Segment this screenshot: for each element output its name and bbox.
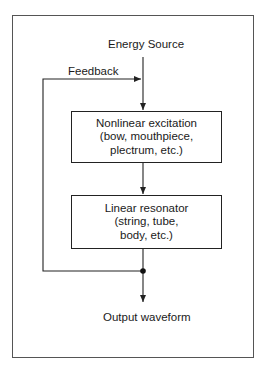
signal-flow-diagram: Energy Source Feedback Nonlinear excitat… — [0, 0, 267, 371]
feedback-label: Feedback — [68, 64, 119, 78]
output-waveform-label: Output waveform — [103, 310, 191, 324]
excitation-title: Nonlinear excitation — [96, 117, 197, 131]
resonator-examples-line2: body, etc.) — [120, 229, 173, 243]
resonator-title: Linear resonator — [105, 202, 189, 216]
junction-dot — [140, 268, 146, 274]
excitation-examples-line2: plectrum, etc.) — [110, 144, 183, 158]
excitation-examples-line1: (bow, mouthpiece, — [100, 130, 193, 144]
nonlinear-excitation-block: Nonlinear excitation (bow, mouthpiece, p… — [71, 111, 222, 163]
energy-source-label: Energy Source — [108, 37, 184, 51]
linear-resonator-block: Linear resonator (string, tube, body, et… — [71, 195, 222, 249]
resonator-examples-line1: (string, tube, — [115, 215, 179, 229]
